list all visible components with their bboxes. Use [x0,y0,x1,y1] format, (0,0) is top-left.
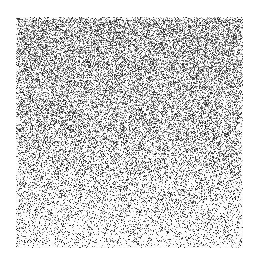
noise-field-canvas [16,17,243,248]
page-root: Dithered Grayscale Noise Field [0,0,257,266]
